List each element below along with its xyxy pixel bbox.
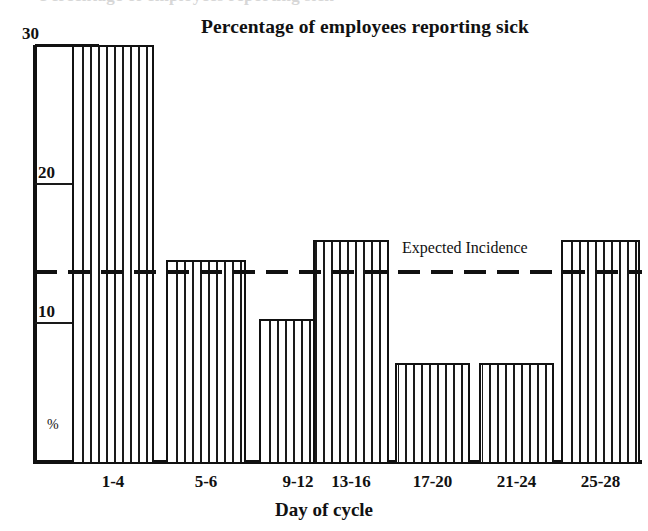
bar-21-24 <box>479 363 554 464</box>
x-label-17-20: 17-20 <box>395 473 470 490</box>
bar-17-20 <box>395 363 470 464</box>
x-axis-title: Day of cycle <box>0 500 648 519</box>
x-label-13-16: 13-16 <box>313 473 389 490</box>
expected-incidence-label: Expected Incidence <box>400 240 530 256</box>
bars-layer <box>0 0 648 531</box>
bar-1-4 <box>72 45 154 464</box>
x-label-1-4: 1-4 <box>72 473 154 490</box>
x-label-21-24: 21-24 <box>479 473 554 490</box>
x-label-25-28: 25-28 <box>561 473 640 490</box>
expected-incidence-line <box>35 270 642 274</box>
sick-leave-bar-chart: Percentage of employees reporting sick P… <box>0 0 648 531</box>
x-label-5-6: 5-6 <box>166 473 246 490</box>
bar-5-6 <box>166 260 246 464</box>
